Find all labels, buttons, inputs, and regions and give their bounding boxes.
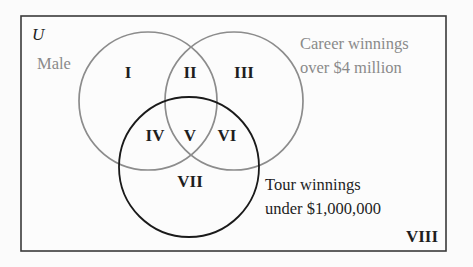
region-label-8: VIII <box>406 227 439 246</box>
region-label-1: I <box>125 63 132 82</box>
region-label-6: VI <box>218 126 237 145</box>
region-label-4: IV <box>146 126 166 145</box>
region-label-7: VII <box>177 172 203 191</box>
region-label-3: III <box>234 63 254 82</box>
male-set-label: Male <box>37 54 71 73</box>
career-winnings-set-label-line-1: Career winnings <box>300 34 409 53</box>
universe-label: U <box>32 25 46 44</box>
tour-winnings-set-label-line-1: Tour winnings <box>265 175 361 194</box>
tour-winnings-set-label-line-2: under $1,000,000 <box>265 199 381 218</box>
region-label-5: V <box>184 126 197 145</box>
venn-diagram: U Male Career winnings over $4 million T… <box>0 0 473 267</box>
region-label-2: II <box>183 63 197 82</box>
career-winnings-set-label-line-2: over $4 million <box>300 58 402 77</box>
